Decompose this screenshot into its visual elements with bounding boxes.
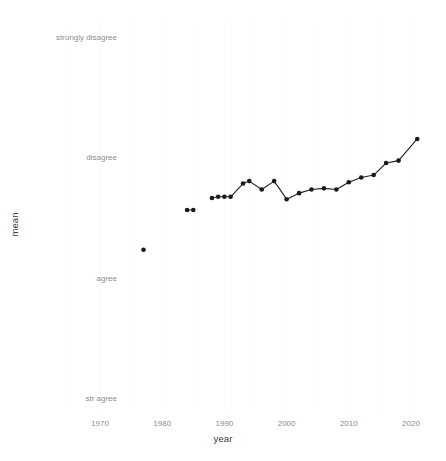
data-point	[228, 194, 233, 199]
y-tick-label: agree	[97, 273, 117, 282]
x-tick-label: 2000	[278, 419, 296, 428]
y-tick-label: str agree	[85, 394, 117, 403]
gridlines-group	[69, 18, 411, 412]
data-point	[334, 187, 339, 192]
data-point	[309, 187, 314, 192]
x-axis-title: year	[0, 433, 446, 444]
data-point	[259, 187, 264, 192]
data-point	[415, 137, 420, 142]
x-tick-label: 2020	[402, 419, 420, 428]
x-tick-label: 1970	[91, 419, 109, 428]
data-point	[284, 197, 289, 202]
y-tick-label: disagree	[86, 153, 117, 162]
data-point	[191, 208, 196, 213]
data-point	[216, 194, 221, 199]
chart-container: strongly disagreedisagreeagreestr agree …	[0, 0, 446, 461]
data-point	[210, 196, 215, 201]
x-tick-label: 1990	[215, 419, 233, 428]
data-point	[347, 180, 352, 185]
data-point	[396, 158, 401, 163]
series-line-2	[212, 139, 417, 199]
data-point	[297, 191, 302, 196]
data-point	[247, 179, 252, 184]
data-point	[141, 247, 146, 252]
data-point	[371, 173, 376, 178]
x-tick-label: 1980	[153, 419, 171, 428]
data-point	[222, 194, 227, 199]
data-point	[322, 186, 327, 191]
y-axis-title: mean	[9, 195, 20, 255]
data-point	[384, 161, 389, 166]
data-point	[241, 181, 246, 186]
y-tick-label: strongly disagree	[56, 32, 117, 41]
data-point	[185, 208, 190, 213]
data-point	[359, 175, 364, 180]
data-series-group	[141, 137, 419, 252]
x-tick-label: 2010	[340, 419, 358, 428]
data-point	[272, 179, 277, 184]
